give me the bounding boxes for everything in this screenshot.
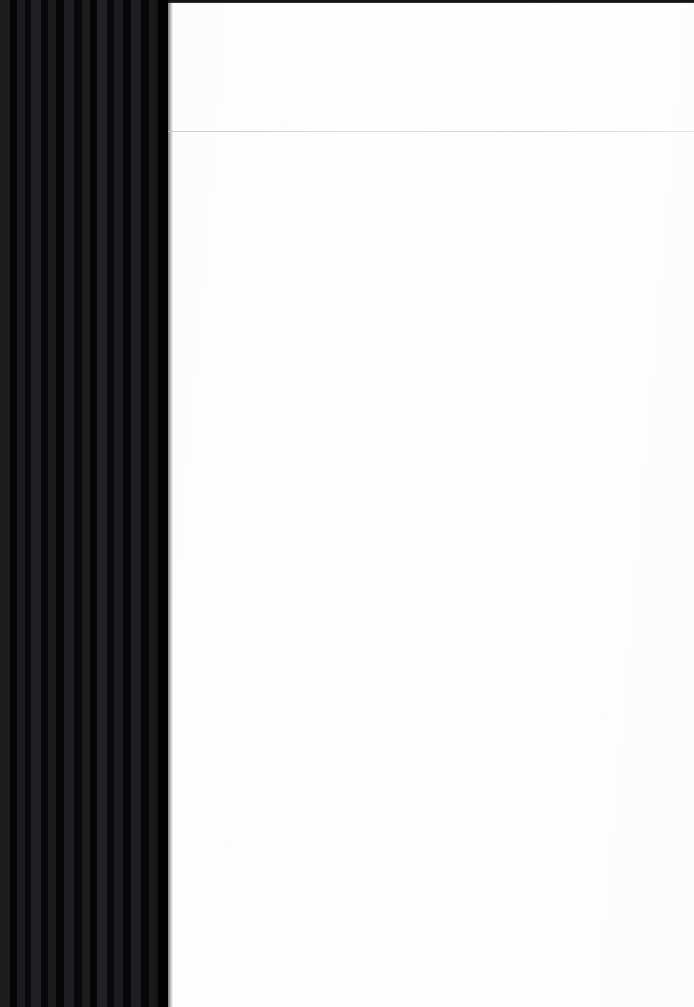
page-header-blank [168, 3, 694, 131]
gutter-shadow-falloff [152, 0, 168, 1007]
spine-gutter-shadow [0, 0, 168, 1007]
gutter-grain-texture [0, 0, 168, 1007]
scanned-page [0, 0, 694, 1007]
page-body-blank [168, 132, 694, 1007]
